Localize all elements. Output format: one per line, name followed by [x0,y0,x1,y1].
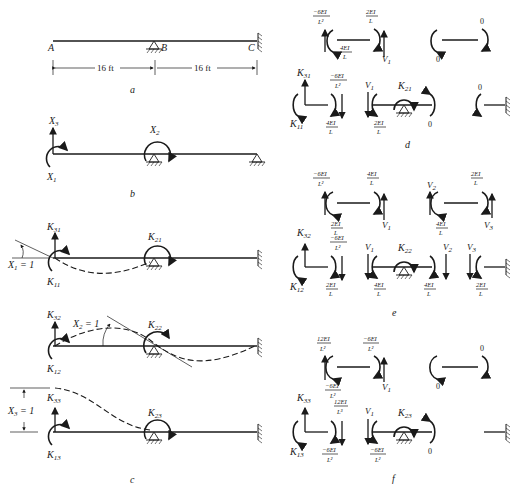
svg-text:K31: K31 [296,67,311,80]
svg-text:4EI: 4EI [367,170,377,177]
svg-text:K13: K13 [289,446,304,459]
svg-text:V1: V1 [382,54,391,66]
fixed-support-icon [258,424,262,443]
svg-text:−6EI: −6EI [330,72,345,79]
pin-support-icon [146,258,162,270]
svg-text:X3: X3 [48,115,59,128]
panel-b-degrees-of-freedom: X3 X1 X2 b [46,115,265,199]
structural-analysis-figure: A B C 16 ft 16 ft a X3 X1 X2 b X1 = 1 [0,0,523,489]
svg-text:K23: K23 [397,407,412,420]
svg-text:K11: K11 [289,118,303,131]
svg-text:4EI: 4EI [340,44,350,51]
svg-text:L: L [328,290,333,297]
fixed-support-icon [258,33,262,52]
panel-a-beam-geometry: A B C 16 ft 16 ft a [47,33,262,95]
svg-text:−6EI: −6EI [330,234,345,241]
panel-c-case2: X2 = 1 K32 K12 K22 [46,309,262,376]
svg-text:0: 0 [428,120,432,129]
svg-text:L: L [342,53,347,60]
point-label-a: A [47,42,55,53]
panel-e-member-forces: −6EI L² 2EI L 4EI L V1 V2 4EI L 2EI L V3… [289,170,510,318]
svg-text:12EI: 12EI [334,398,347,405]
svg-text:L²: L² [334,82,342,89]
svg-text:V1: V1 [382,220,391,232]
svg-text:0: 0 [428,447,432,456]
svg-text:K12: K12 [289,281,304,294]
point-label-b: B [161,42,167,53]
span-ab-dimension: 16 ft [97,63,114,73]
caption-d: d [405,139,411,150]
svg-text:4EI: 4EI [436,220,446,227]
svg-text:L²: L² [317,18,325,25]
svg-text:12EI: 12EI [317,335,330,342]
pin-support-icon [249,154,265,166]
svg-text:0: 0 [478,83,482,92]
panel-c-case3: X3 = 1 K33 K13 K23 c [7,388,262,485]
svg-text:−6EI: −6EI [370,446,385,453]
svg-text:4EI: 4EI [326,119,336,126]
svg-text:V2: V2 [427,180,437,192]
svg-text:L²: L² [367,345,375,352]
svg-text:K31: K31 [46,221,61,234]
svg-text:−6EI: −6EI [322,446,337,453]
svg-text:L: L [376,128,381,135]
svg-text:L²: L² [374,456,382,463]
svg-text:2EI: 2EI [331,220,341,227]
svg-text:−6EI: −6EI [313,170,328,177]
svg-text:X2 = 1: X2 = 1 [72,318,99,331]
svg-text:0: 0 [480,344,484,353]
svg-text:K23: K23 [147,407,162,420]
svg-text:K32: K32 [46,309,61,322]
svg-text:2EI: 2EI [366,8,376,15]
span-bc-dimension: 16 ft [194,63,211,73]
caption-e: e [392,307,397,318]
svg-text:K11: K11 [46,276,60,289]
svg-text:X1 = 1: X1 = 1 [7,259,34,272]
svg-text:L: L [368,17,373,24]
svg-text:0: 0 [436,55,440,64]
svg-text:V1: V1 [382,382,391,394]
panel-f-member-forces: 12EI L² −6EI L² −6EI L² V1 0 0 K33 K13 1… [289,335,510,484]
svg-text:−6EI: −6EI [313,8,328,15]
panel-d-member-forces: −6EI L² 4EI L 2EI L V1 0 0 K31 K11 −6EI … [289,8,510,150]
svg-text:V3: V3 [467,242,477,254]
x1-rotation-icon [46,146,67,167]
caption-a: a [130,84,135,95]
svg-text:−6EI: −6EI [325,382,340,389]
svg-text:L²: L² [319,345,327,352]
fixed-support-icon [258,338,262,357]
svg-text:K13: K13 [46,449,61,462]
svg-text:X3 = 1: X3 = 1 [7,405,34,418]
x2-rotation-icon [145,142,171,161]
caption-b: b [130,188,135,199]
svg-text:K12: K12 [46,363,61,376]
svg-text:4EI: 4EI [424,281,434,288]
panel-c-case1: X1 = 1 K31 K11 K21 [7,221,262,289]
svg-text:0: 0 [480,17,484,26]
svg-text:L²: L² [326,456,334,463]
svg-text:L: L [478,290,483,297]
svg-text:V2: V2 [443,242,453,254]
svg-text:L: L [473,179,478,186]
svg-text:L²: L² [334,244,342,251]
svg-text:2EI: 2EI [326,281,336,288]
svg-text:2EI: 2EI [476,281,486,288]
svg-text:V1: V1 [365,406,374,418]
svg-text:L²: L² [317,180,325,187]
svg-text:X2: X2 [149,124,160,137]
svg-text:L³: L³ [336,408,344,415]
fixed-support-icon [258,250,262,269]
svg-text:L: L [426,290,431,297]
pin-support-icon [146,41,162,53]
svg-text:2EI: 2EI [471,170,481,177]
svg-text:L: L [376,290,381,297]
svg-text:K33: K33 [46,392,61,405]
point-label-c: C [248,42,255,53]
svg-text:K22: K22 [397,242,412,255]
svg-text:L: L [328,128,333,135]
svg-text:V3: V3 [484,220,494,232]
caption-f: f [392,473,396,484]
svg-text:V1: V1 [365,242,374,254]
pin-support-icon [146,154,162,166]
deflected-shape [55,258,150,273]
